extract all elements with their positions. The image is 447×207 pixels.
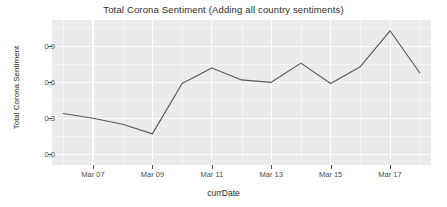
x-tick-label-1: Mar 09 [141,170,164,179]
x-tick-mark-5 [390,165,391,169]
x-tick-label-0: Mar 07 [81,170,104,179]
y-axis-title-text: Total Corona Sentiment [13,46,22,130]
x-tick-mark-4 [331,165,332,169]
x-tick-label-4: Mar 15 [319,170,342,179]
x-tick-mark-2 [212,165,213,169]
x-tick-mark-3 [271,165,272,169]
chart-container: Total Corona Sentiment (Adding all count… [0,0,447,207]
y-tick-mark-3 [48,46,52,47]
y-tick-mark-0 [48,154,52,155]
plot-panel [52,20,431,165]
data-line [52,20,431,165]
y-tick-mark-1 [48,118,52,119]
x-axis-title: currDate [0,188,447,198]
x-tick-mark-0 [93,165,94,169]
series-polyline [63,31,419,134]
y-axis-title: Total Corona Sentiment [10,0,24,175]
y-tick-mark-2 [48,82,52,83]
x-tick-label-2: Mar 11 [200,170,223,179]
x-tick-label-5: Mar 17 [378,170,401,179]
x-tick-label-3: Mar 13 [260,170,283,179]
x-tick-mark-1 [152,165,153,169]
chart-title: Total Corona Sentiment (Adding all count… [0,4,447,15]
